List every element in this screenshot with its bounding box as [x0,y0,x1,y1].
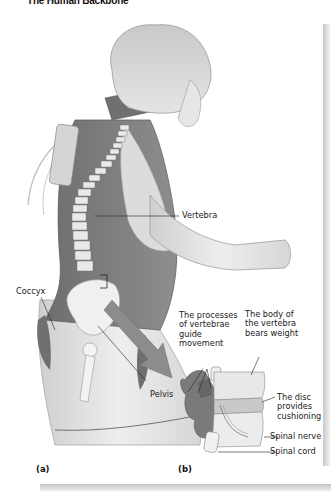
label-disc: The disc provides cushioning [277,393,321,421]
label-vertebral-body: The body of the vertebra bears weight [245,310,298,338]
label-vertebra: Vertebra [182,211,217,220]
label-pelvis: Pelvis [150,390,173,399]
panel-label-a: (a) [36,464,50,474]
panel-label-b: (b) [178,464,192,474]
backbone-illustration [0,0,336,499]
label-spinal-nerve: Spinal nerve [270,432,321,441]
label-spinal-cord: Spinal cord [270,447,316,456]
label-coccyx: Coccyx [16,287,45,296]
label-processes: The processes of vertebrae guide movemen… [179,311,238,349]
